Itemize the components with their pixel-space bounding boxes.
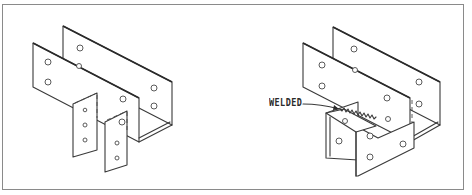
bracket-drawings xyxy=(0,0,472,195)
welded-label: WELDED xyxy=(269,97,302,108)
right-bracket-drawing xyxy=(303,27,440,176)
welded-bracket-front xyxy=(356,122,414,176)
left-bracket-drawing xyxy=(33,26,172,172)
